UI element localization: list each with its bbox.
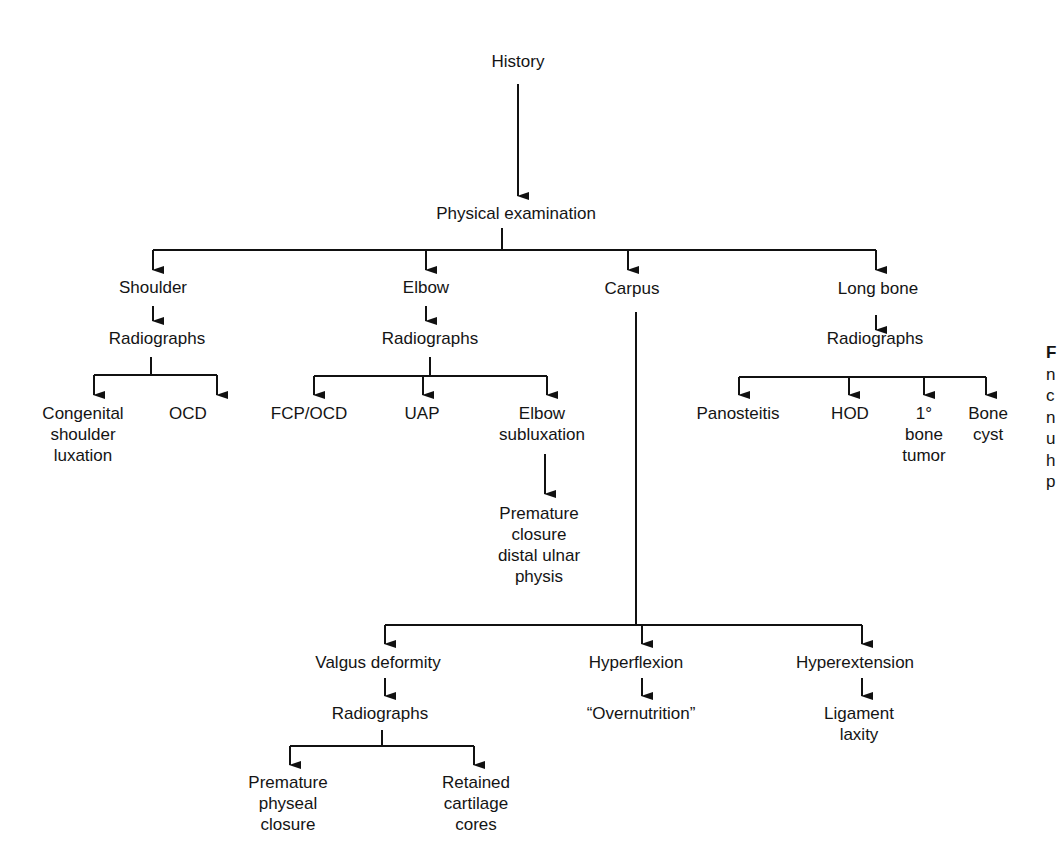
caption-char: n: [1046, 364, 1061, 386]
node-label: History: [492, 51, 545, 72]
node-label: Shoulder: [119, 277, 187, 298]
node-longbone-radiographs: Radiographs: [827, 328, 923, 349]
node-uap: UAP: [405, 403, 440, 424]
caption-char: F: [1046, 342, 1061, 364]
node-valgus-radiographs: Radiographs: [332, 703, 428, 724]
node-label: physeal: [248, 793, 327, 814]
node-label: Retained: [442, 772, 510, 793]
node-label: FCP/OCD: [271, 403, 348, 424]
node-label: Valgus deformity: [315, 652, 440, 673]
caption-char: n: [1046, 407, 1061, 429]
node-elbow-radiographs: Radiographs: [382, 328, 478, 349]
node-label: “Overnutrition”: [587, 703, 696, 724]
node-label: Radiographs: [382, 328, 478, 349]
node-hod: HOD: [831, 403, 869, 424]
node-label: Panosteitis: [696, 403, 779, 424]
node-carpus: Carpus: [605, 278, 660, 299]
node-shoulder-radiographs: Radiographs: [109, 328, 205, 349]
node-elbow-subluxation: Elbow subluxation: [499, 403, 585, 445]
node-label: Radiographs: [109, 328, 205, 349]
node-long-bone: Long bone: [838, 278, 918, 299]
node-shoulder-ocd: OCD: [169, 403, 207, 424]
clipped-caption-fragment: F n c n u h p: [1046, 342, 1061, 493]
node-hyperflexion: Hyperflexion: [589, 652, 684, 673]
node-label: Elbow: [499, 403, 585, 424]
node-label: Physical examination: [436, 203, 596, 224]
node-label: Carpus: [605, 278, 660, 299]
node-retained-cartilage-cores: Retained cartilage cores: [442, 772, 510, 835]
node-label: physis: [498, 566, 580, 587]
node-label: 1°: [902, 403, 945, 424]
node-physical-examination: Physical examination: [436, 203, 596, 224]
node-premature-physeal-closure: Premature physeal closure: [248, 772, 327, 835]
node-label: Premature: [498, 503, 580, 524]
node-label: closure: [248, 814, 327, 835]
node-label: Elbow: [403, 277, 449, 298]
node-label: shoulder: [42, 424, 123, 445]
node-label: tumor: [902, 445, 945, 466]
node-history: History: [492, 51, 545, 72]
node-label: distal ulnar: [498, 545, 580, 566]
node-label: cores: [442, 814, 510, 835]
node-fcp-ocd: FCP/OCD: [271, 403, 348, 424]
node-congenital-shoulder-luxation: Congenital shoulder luxation: [42, 403, 123, 466]
node-label: Hyperflexion: [589, 652, 684, 673]
node-label: bone: [902, 424, 945, 445]
node-bone-cyst: Bone cyst: [968, 403, 1008, 445]
caption-char: u: [1046, 428, 1061, 450]
node-label: subluxation: [499, 424, 585, 445]
node-label: laxity: [824, 724, 894, 745]
node-ligament-laxity: Ligament laxity: [824, 703, 894, 745]
node-label: cartilage: [442, 793, 510, 814]
node-label: UAP: [405, 403, 440, 424]
node-label: luxation: [42, 445, 123, 466]
node-label: Congenital: [42, 403, 123, 424]
node-label: Radiographs: [332, 703, 428, 724]
node-label: cyst: [968, 424, 1008, 445]
node-label: OCD: [169, 403, 207, 424]
caption-char: p: [1046, 471, 1061, 493]
node-label: Premature: [248, 772, 327, 793]
node-elbow: Elbow: [403, 277, 449, 298]
node-label: Ligament: [824, 703, 894, 724]
node-label: closure: [498, 524, 580, 545]
node-premature-closure-distal-ulnar-physis: Premature closure distal ulnar physis: [498, 503, 580, 587]
node-label: Hyperextension: [796, 652, 914, 673]
node-label: Radiographs: [827, 328, 923, 349]
caption-char: c: [1046, 385, 1061, 407]
node-panosteitis: Panosteitis: [696, 403, 779, 424]
node-label: HOD: [831, 403, 869, 424]
node-overnutrition: “Overnutrition”: [587, 703, 696, 724]
caption-char: h: [1046, 450, 1061, 472]
node-label: Bone: [968, 403, 1008, 424]
node-hyperextension: Hyperextension: [796, 652, 914, 673]
node-primary-bone-tumor: 1° bone tumor: [902, 403, 945, 466]
node-valgus-deformity: Valgus deformity: [315, 652, 440, 673]
node-shoulder: Shoulder: [119, 277, 187, 298]
node-label: Long bone: [838, 278, 918, 299]
